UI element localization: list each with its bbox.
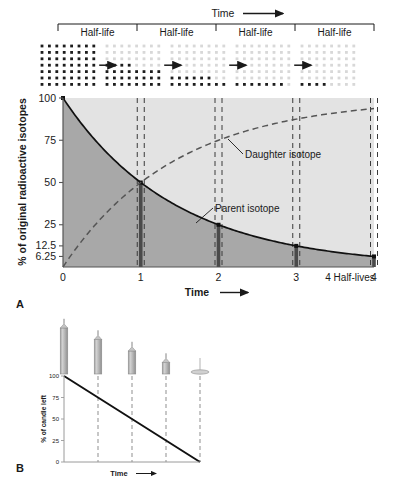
y-tick-label: 12.5 [36,239,57,251]
daughter-isotope-dot [330,51,333,54]
panel-b-y-tick-label: 50 [52,416,59,422]
daughter-isotope-dot [113,45,116,48]
daughter-isotope-dot [157,45,160,48]
parent-isotope-dot [41,83,44,86]
daughter-isotope-dot [143,64,146,67]
parent-isotope-dot [250,83,253,86]
daughter-isotope-dot [273,64,276,67]
parent-isotope-dot [78,45,81,48]
parent-isotope-dot [48,57,51,60]
daughter-isotope-dot [330,77,333,80]
daughter-isotope-dot [208,45,211,48]
daughter-isotope-dot [150,45,153,48]
daughter-isotope-dot [208,64,211,67]
daughter-isotope-dot [178,57,181,60]
daughter-isotope-dot [352,83,355,86]
parent-isotope-dot [78,77,81,80]
daughter-isotope-dot [258,70,261,73]
candle-0 [60,319,68,374]
daughter-isotope-dot [323,57,326,60]
panel-b-y-tick-label: 25 [52,438,59,444]
daughter-isotope-dot [106,57,109,60]
daughter-isotope-dot [301,45,304,48]
time-label-top: Time [212,7,235,19]
daughter-isotope-dot [345,57,348,60]
parent-isotope-dot [157,77,160,80]
daughter-isotope-dot [106,51,109,54]
daughter-isotope-dot [200,51,203,54]
daughter-isotope-dot [287,45,290,48]
parent-isotope-dot [41,77,44,80]
daughter-isotope-dot [135,45,138,48]
candle-1 [94,330,102,374]
panel-b-y-tick-label: 0 [56,459,60,465]
daughter-isotope-dot [338,77,341,80]
panel-b-x-axis-title: Time [110,469,127,478]
x-tick-label: 0 [60,271,66,283]
daughter-isotope-dot [236,70,239,73]
parent-isotope-dot [48,70,51,73]
parent-isotope-dot [150,70,153,73]
parent-isotope-dot [92,83,95,86]
candle-melted-pool [191,370,209,374]
daughter-isotope-dot [258,64,261,67]
daughter-isotope-dot [222,45,225,48]
daughter-isotope-dot [345,51,348,54]
daughter-isotope-dot [315,70,318,73]
daughter-isotope-dot [315,77,318,80]
halflife-segment-label-1: Half-life [81,27,115,38]
parent-isotope-dot [55,77,58,80]
daughter-isotope-dot [280,70,283,73]
daughter-isotope-dot [258,45,261,48]
daughter-isotope-dot [250,51,253,54]
daughter-isotope-dot [157,57,160,60]
top-time-header: Time [212,7,283,19]
parent-isotope-dot [85,70,88,73]
daughter-isotope-dot [215,57,218,60]
daughter-isotope-dot [128,45,131,48]
daughter-isotope-dot [338,45,341,48]
daughter-isotope-dot [338,51,341,54]
x-tick-label: 3 [293,271,299,283]
daughter-isotope-dot [323,77,326,80]
candle-tip [60,324,68,328]
daughter-isotope-dot [301,77,304,80]
parent-isotope-dot [92,70,95,73]
daughter-isotope-dot [287,77,290,80]
daughter-isotope-dot [243,45,246,48]
daughter-isotope-dot [323,64,326,67]
daughter-isotope-dot [135,51,138,54]
daughter-isotope-dot [330,64,333,67]
parent-isotope-dot [78,51,81,54]
daughter-isotope-dot [193,51,196,54]
daughter-isotope-dot [315,45,318,48]
daughter-isotope-dot [308,51,311,54]
panel-b-guides [98,376,200,462]
daughter-isotope-dot [258,57,261,60]
daughter-isotope-dot [143,45,146,48]
daughter-isotope-dot [185,45,188,48]
panel-b-chart: 0255075100 % of candle left Time [40,319,209,478]
panel-a-y-axis-title: % of original radioactive isotopes [16,98,28,266]
daughter-isotope-dot [308,70,311,73]
daughter-isotope-dot [106,45,109,48]
daughter-isotope-dot [193,57,196,60]
y-tick-label: 100 [38,92,56,104]
daughter-isotope-dot [338,64,341,67]
daughter-isotope-dot [308,45,311,48]
daughter-isotope-dot [143,51,146,54]
daughter-isotope-dot [200,64,203,67]
y-tick-label: 75 [44,134,56,146]
daughter-isotope-dot [323,70,326,73]
parent-isotope-dot [70,77,73,80]
parent-isotope-dot [150,77,153,80]
daughter-isotope-dot [250,57,253,60]
parent-isotope-dot [113,70,116,73]
dot-grid-0 [41,45,96,86]
candle-body [94,340,102,375]
parent-isotope-dot [113,77,116,80]
daughter-isotope-dot [185,70,188,73]
parent-isotope-dot [78,57,81,60]
parent-isotope-dot [128,83,131,86]
daughter-isotope-dot [120,51,123,54]
